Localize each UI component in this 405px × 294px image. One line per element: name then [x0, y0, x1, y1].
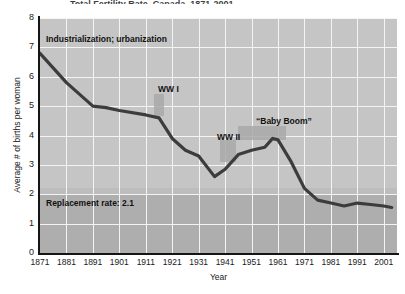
plot-area: Industrialization; urbanization WW I WW …: [40, 18, 397, 253]
y-tick-5: 5: [2, 101, 34, 110]
y-tick-6: 6: [2, 72, 34, 81]
x-tick-2001: 2001: [364, 256, 404, 268]
y-tick-3: 3: [2, 160, 34, 169]
annotation-replacement-rate: Replacement rate: 2.1: [46, 198, 134, 208]
y-tick-7: 7: [2, 42, 34, 51]
x-axis-title: Year: [40, 272, 397, 282]
chart-figure: Total Fertility Rate, Canada, 1871-2001 …: [0, 0, 405, 294]
y-tick-8: 8: [2, 13, 34, 22]
y-axis-line: [38, 16, 40, 255]
x-axis-line: [38, 253, 399, 255]
annotation-industrialization: Industrialization; urbanization: [46, 34, 167, 44]
y-tick-2: 2: [2, 189, 34, 198]
annotation-baby-boom: “Baby Boom”: [256, 116, 312, 126]
y-tick-4: 4: [2, 131, 34, 140]
x-axis-tick-labels: 1871188118911901191119211931194119511961…: [40, 256, 397, 270]
annotation-ww2: WW II: [217, 132, 240, 142]
annotation-ww1: WW I: [158, 84, 179, 94]
chart-title: Total Fertility Rate, Canada, 1871-2001: [70, 0, 370, 4]
y-axis-tick-labels: 012345678: [0, 0, 34, 294]
y-tick-1: 1: [2, 219, 34, 228]
